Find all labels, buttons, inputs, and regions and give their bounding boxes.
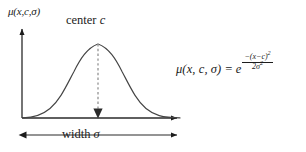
figure-canvas: μ(x,c,σ) center c width σ μ(x, c, σ) = e…: [0, 0, 306, 152]
equation-base: e: [236, 63, 242, 76]
equation-exponent-denominator-text: 2σ: [252, 62, 260, 71]
equation-exponent-denominator-power: 2: [260, 60, 263, 67]
center-arrowhead-icon: [93, 109, 102, 119]
equation-exponent-numerator-text: −(x−c): [244, 52, 267, 61]
center-annotation-label: center c: [66, 14, 105, 27]
equation-exponent-numerator-power: 2: [268, 49, 271, 56]
width-annotation-text: width: [62, 127, 94, 141]
equation-exponent: −(x−c)2 2σ2: [242, 53, 272, 72]
equation-lhs: μ(x, c, σ): [176, 63, 221, 76]
gaussian-equation: μ(x, c, σ) = e −(x−c)2 2σ2: [176, 60, 273, 79]
width-annotation-label: width σ: [62, 128, 100, 141]
gaussian-curve: [23, 44, 180, 118]
equation-exponent-numerator: −(x−c)2: [242, 53, 272, 62]
center-annotation-text: center: [66, 13, 100, 27]
width-annotation-variable: σ: [94, 127, 100, 141]
width-arrow-left-head-icon: [19, 132, 27, 139]
equation-exponent-denominator: 2σ2: [242, 62, 272, 72]
equation-equals-sign: =: [224, 63, 232, 76]
center-annotation-variable: c: [100, 13, 106, 27]
y-axis-label: μ(x,c,σ): [8, 6, 40, 17]
